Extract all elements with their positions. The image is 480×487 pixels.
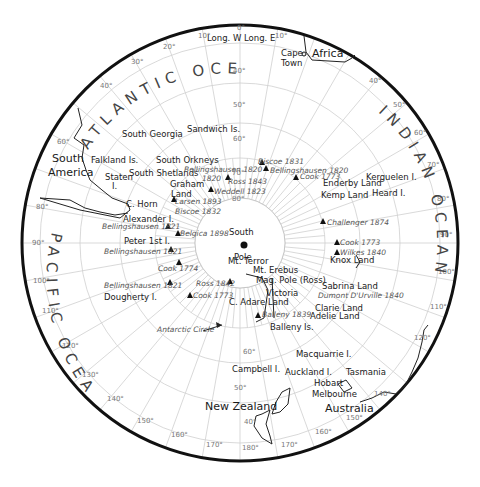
svg-text:Mt. Erebus: Mt. Erebus [253, 265, 299, 275]
svg-text:Kerguelen I.: Kerguelen I. [366, 172, 417, 182]
svg-text:C. Adare: C. Adare [229, 297, 265, 307]
svg-text:Biscoe 1831: Biscoe 1831 [258, 157, 304, 166]
svg-text:Auckland I.: Auckland I. [285, 367, 332, 377]
svg-text:Sandwich Is.: Sandwich Is. [187, 124, 240, 134]
svg-text:90°: 90° [32, 239, 44, 247]
svg-text:Cook 1774: Cook 1774 [158, 264, 198, 273]
svg-text:80°: 80° [232, 195, 244, 203]
australia-label: Australia [325, 402, 374, 415]
svg-text:C. Horn: C. Horn [126, 199, 158, 209]
svg-text:80°: 80° [36, 203, 48, 211]
svg-text:Falkland Is.: Falkland Is. [91, 155, 138, 165]
south-america-label-2: America [48, 166, 93, 179]
svg-text:Campbell I.: Campbell I. [232, 364, 280, 374]
south-pole-marker [241, 242, 248, 249]
svg-text:0°: 0° [237, 24, 245, 32]
svg-text:10°: 10° [198, 32, 210, 40]
svg-text:60°: 60° [233, 135, 245, 143]
svg-text:Weddell 1823: Weddell 1823 [214, 187, 266, 196]
svg-text:150°: 150° [346, 414, 363, 422]
svg-text:180°: 180° [242, 444, 259, 452]
svg-text:40°: 40° [244, 418, 256, 426]
svg-text:40°: 40° [100, 82, 112, 90]
svg-text:Ross 1843: Ross 1843 [228, 177, 267, 186]
svg-text:1820: 1820 [202, 174, 221, 183]
cape-town-label-1: Cape [281, 48, 303, 58]
svg-text:30°: 30° [131, 58, 143, 66]
svg-text:Balleny Is.: Balleny Is. [270, 322, 314, 332]
svg-text:Hobart: Hobart [314, 378, 344, 388]
svg-text:170°: 170° [206, 441, 223, 449]
new-zealand-south [254, 410, 272, 444]
svg-text:10°: 10° [275, 32, 287, 40]
svg-text:South Orkneys: South Orkneys [156, 155, 219, 165]
svg-text:60°: 60° [243, 348, 255, 356]
svg-text:Ross 1842: Ross 1842 [196, 279, 235, 288]
svg-text:Tasmania: Tasmania [345, 367, 386, 377]
svg-text:Bellingshausen 1821: Bellingshausen 1821 [104, 247, 182, 256]
svg-text:South Georgia: South Georgia [122, 129, 183, 139]
svg-text:50°: 50° [393, 101, 405, 109]
svg-text:Wilkes 1840: Wilkes 1840 [340, 248, 386, 257]
svg-text:150°: 150° [137, 417, 154, 425]
long-west-label: Long. W [207, 33, 242, 43]
svg-text:140°: 140° [374, 390, 391, 398]
svg-text:Challenger 1874: Challenger 1874 [327, 218, 389, 227]
svg-text:Dumont D'Urville 1840: Dumont D'Urville 1840 [318, 291, 404, 300]
new-zealand-label: New Zealand [205, 400, 277, 413]
svg-text:120°: 120° [414, 334, 431, 342]
svg-text:Belgica 1898: Belgica 1898 [180, 229, 229, 238]
svg-text:I.: I. [112, 181, 117, 191]
svg-text:140°: 140° [107, 395, 124, 403]
svg-text:110°: 110° [430, 303, 447, 311]
svg-text:Mag. Pole (Ross): Mag. Pole (Ross) [256, 275, 326, 285]
svg-text:Macquarrie I.: Macquarrie I. [296, 349, 352, 359]
svg-text:Bellingshausen 1821: Bellingshausen 1821 [102, 222, 180, 231]
svg-text:Bellingshausen 1820: Bellingshausen 1820 [184, 165, 263, 174]
long-east-label: Long. E [244, 33, 275, 43]
svg-text:160°: 160° [315, 428, 332, 436]
south-pole-label-1: South [229, 227, 254, 237]
svg-text:Graham: Graham [170, 179, 204, 189]
svg-text:Kemp Land: Kemp Land [321, 190, 369, 200]
svg-text:20°: 20° [163, 43, 175, 51]
svg-text:Adelie Land: Adelie Land [310, 311, 360, 321]
svg-text:Biscoe 1832: Biscoe 1832 [175, 207, 221, 216]
svg-text:50°: 50° [233, 101, 245, 109]
svg-text:60°: 60° [57, 138, 69, 146]
svg-text:Dougherty I.: Dougherty I. [104, 292, 157, 302]
svg-text:Bellingshausen 1821: Bellingshausen 1821 [104, 281, 182, 290]
svg-text:Larsen 1893: Larsen 1893 [175, 197, 222, 206]
svg-text:Melbourne: Melbourne [312, 389, 357, 399]
svg-text:Heard I.: Heard I. [372, 188, 405, 198]
svg-text:Balleny 1839: Balleny 1839 [262, 310, 311, 319]
svg-text:170°: 170° [281, 441, 298, 449]
svg-text:Peter 1st I.: Peter 1st I. [124, 236, 170, 246]
south-america-label-1: South [52, 152, 84, 165]
svg-text:Cook 1773: Cook 1773 [193, 291, 233, 300]
cape-town-label-2: Town [280, 58, 302, 68]
antarctic-polar-map: Long. W Long. E 0° 10° 10° 20° 30° 40° 4… [0, 0, 480, 487]
svg-text:Land: Land [268, 297, 289, 307]
africa-label: Africa [312, 47, 343, 60]
svg-text:50°: 50° [234, 384, 246, 392]
svg-text:Sabrina Land: Sabrina Land [322, 281, 378, 291]
svg-text:Antarctic Circle: Antarctic Circle [156, 325, 215, 334]
svg-text:Cook 1773: Cook 1773 [300, 172, 340, 181]
svg-text:160°: 160° [171, 431, 188, 439]
svg-text:Cook 1773: Cook 1773 [340, 238, 380, 247]
svg-text:40°: 40° [369, 77, 381, 85]
